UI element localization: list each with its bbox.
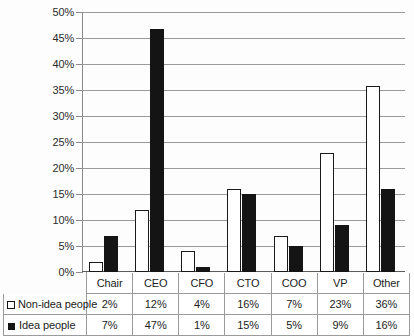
cell-idea-vp: 9% [317, 315, 363, 336]
table-header-chair: Chair [87, 273, 133, 294]
y-axis-label-35: 35% [40, 84, 74, 96]
y-axis-label-15: 15% [40, 188, 74, 200]
bar-idea-other[interactable] [381, 189, 395, 272]
table-row-nonidea: Non-idea people 2% 12% 4% 16% 7% 23% 36% [4, 294, 410, 315]
table-header-cto: CTO [225, 273, 271, 294]
bar-idea-coo[interactable] [289, 246, 303, 272]
data-table: Chair CEO CFO CTO COO VP Other Non-idea … [3, 272, 410, 336]
y-axis-label-5: 5% [40, 240, 74, 252]
cell-nonidea-cfo: 4% [179, 294, 225, 315]
y-axis-label-40: 40% [40, 58, 74, 70]
table-header-cfo: CFO [179, 273, 225, 294]
table-row-idea: Idea people 7% 47% 1% 15% 5% 9% 16% [4, 315, 410, 336]
bar-group-other [359, 12, 405, 272]
table-header-ceo: CEO [133, 273, 179, 294]
legend-swatch-open-square-icon [7, 301, 15, 309]
bar-group-cfo [174, 12, 220, 272]
bar-group-vp [313, 12, 359, 272]
bar-group-chair [82, 12, 128, 272]
cell-idea-coo: 5% [271, 315, 317, 336]
y-axis-label-30: 30% [40, 110, 74, 122]
table-header-other: Other [363, 273, 409, 294]
bar-group-coo [267, 12, 313, 272]
bar-idea-cto[interactable] [242, 194, 256, 272]
cell-nonidea-other: 36% [363, 294, 409, 315]
legend-label-idea: Idea people [19, 319, 75, 331]
legend-item-nonidea: Non-idea people [4, 294, 87, 315]
cell-nonidea-cto: 16% [225, 294, 271, 315]
legend-label-nonidea: Non-idea people [18, 298, 97, 310]
bar-idea-vp[interactable] [335, 225, 349, 272]
y-axis-label-50: 50% [40, 6, 74, 18]
cell-nonidea-vp: 23% [317, 294, 363, 315]
cell-idea-cfo: 1% [179, 315, 225, 336]
table-corner-cell [4, 273, 87, 294]
bar-idea-chair[interactable] [104, 236, 118, 272]
bar-idea-ceo[interactable] [150, 29, 164, 272]
y-axis-label-25: 25% [40, 136, 74, 148]
legend-item-idea: Idea people [4, 315, 87, 336]
y-axis-label-45: 45% [40, 32, 74, 44]
bar-nonidea-other[interactable] [366, 86, 380, 272]
bar-group-cto [220, 12, 266, 272]
legend-swatch-filled-square-icon [8, 323, 15, 330]
table-header-row: Chair CEO CFO CTO COO VP Other [4, 273, 410, 294]
bar-nonidea-cfo[interactable] [181, 251, 195, 272]
bar-nonidea-ceo[interactable] [135, 210, 149, 272]
bar-nonidea-chair[interactable] [89, 262, 103, 272]
cell-idea-other: 16% [363, 315, 409, 336]
table-header-coo: COO [271, 273, 317, 294]
bar-chart-screenshot: 50% 45% 40% 35% 30% 25% 20% 15% 10% 5% 0… [0, 0, 414, 336]
y-axis-label-20: 20% [40, 162, 74, 174]
cell-idea-cto: 15% [225, 315, 271, 336]
bar-group-ceo [128, 12, 174, 272]
cell-nonidea-coo: 7% [271, 294, 317, 315]
y-axis-label-10: 10% [40, 214, 74, 226]
bar-nonidea-coo[interactable] [274, 236, 288, 272]
cell-idea-ceo: 47% [133, 315, 179, 336]
plot-area [82, 12, 405, 272]
bar-nonidea-cto[interactable] [227, 189, 241, 272]
bar-nonidea-vp[interactable] [320, 153, 334, 272]
cell-idea-chair: 7% [87, 315, 133, 336]
table-header-vp: VP [317, 273, 363, 294]
cell-nonidea-ceo: 12% [133, 294, 179, 315]
